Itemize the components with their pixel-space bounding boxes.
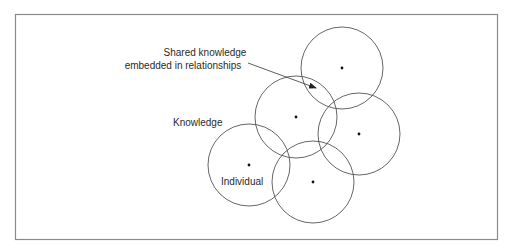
- node-dot: [295, 116, 298, 119]
- shared-knowledge-label-line1: Shared knowledge: [164, 47, 247, 58]
- node-dot: [358, 133, 361, 136]
- node-dot: [312, 181, 315, 184]
- circle-middle: [255, 76, 337, 158]
- knowledge-network-diagram: Shared knowledge embedded in relationshi…: [0, 0, 514, 252]
- circle-individual: [208, 124, 290, 206]
- circle-bottom: [272, 141, 354, 223]
- node-dot: [248, 164, 251, 167]
- node-dot: [341, 67, 344, 70]
- individual-label: Individual: [221, 176, 263, 187]
- arrow-icon: [248, 63, 316, 88]
- shared-knowledge-label-line2: embedded in relationships: [125, 60, 242, 71]
- knowledge-label: Knowledge: [173, 117, 223, 128]
